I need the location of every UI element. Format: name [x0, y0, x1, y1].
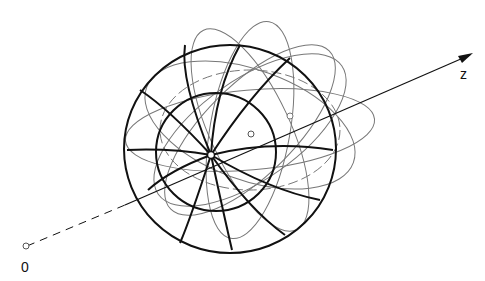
axis-point: [287, 113, 293, 119]
axis-dashed: [27, 205, 125, 246]
meridian: [180, 155, 211, 243]
center-point: [208, 152, 215, 159]
back-ellipse: [139, 19, 361, 241]
arrow-head-icon: [458, 53, 473, 63]
z-axis-label: z: [460, 66, 467, 82]
origin-point: [23, 243, 29, 249]
sphere-diagram: z 0: [0, 0, 485, 281]
axis-point: [248, 131, 254, 137]
meridian: [140, 90, 211, 155]
meridian: [127, 150, 211, 155]
meridian: [211, 146, 333, 155]
origin-label: 0: [21, 259, 29, 275]
